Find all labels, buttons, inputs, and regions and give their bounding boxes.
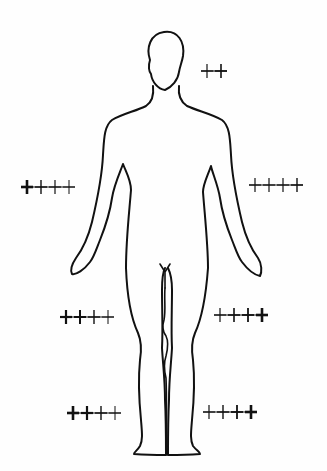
marker-upper-arm-left	[20, 177, 80, 197]
marker-ankle-left	[66, 403, 126, 423]
marker-ankle-right	[202, 402, 262, 422]
right-body-outline	[168, 86, 261, 455]
marker-thigh-right	[213, 305, 273, 325]
body-outline-drawing	[0, 0, 327, 471]
marker-head-right	[200, 61, 232, 81]
marker-thigh-left	[59, 307, 119, 327]
body-diagram: Human body outline with plus-sign intens…	[0, 0, 327, 471]
head-outline	[149, 32, 184, 90]
left-body-outline	[71, 86, 166, 455]
marker-upper-arm-right	[248, 175, 308, 195]
